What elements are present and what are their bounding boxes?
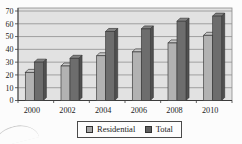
legend-item-residential: Residential — [86, 125, 135, 134]
y-tick-label: 40 — [6, 45, 14, 54]
bar-side-total-2004 — [115, 28, 118, 100]
legend-swatch-residential — [86, 126, 93, 133]
legend-label-total: Total — [156, 125, 173, 134]
y-tick-label: 10 — [6, 84, 14, 93]
bar-side-total-2002 — [79, 55, 82, 100]
bar-residential-2008 — [168, 43, 177, 101]
bar-residential-2010 — [204, 35, 213, 100]
x-tick-label: 2002 — [59, 106, 75, 115]
bar-total-2000 — [34, 62, 43, 100]
x-tick-label: 2008 — [166, 106, 182, 115]
bar-residential-2000 — [25, 72, 34, 100]
bar-residential-2004 — [97, 56, 106, 101]
y-tick-label: 30 — [6, 58, 14, 67]
legend-swatch-total — [145, 126, 152, 133]
plot-background — [18, 8, 232, 101]
bar-side-total-2008 — [186, 18, 189, 100]
bar-side-total-2000 — [43, 59, 46, 100]
bar-side-total-2010 — [222, 13, 225, 100]
bar-side-total-2006 — [150, 26, 153, 101]
bar-residential-2006 — [132, 52, 141, 101]
y-tick-label: 70 — [6, 7, 14, 16]
legend-item-total: Total — [145, 125, 173, 134]
bar-total-2006 — [141, 29, 150, 101]
y-tick-label: 20 — [6, 71, 14, 80]
bar-residential-2002 — [61, 66, 70, 101]
bar-total-2010 — [213, 16, 222, 100]
x-tick-label: 2000 — [24, 106, 40, 115]
bar-total-2004 — [106, 31, 115, 100]
bar-total-2002 — [70, 58, 79, 100]
x-tick-label: 2010 — [202, 106, 218, 115]
chart-container: 010203040506070200020022004200620082010 … — [0, 0, 242, 144]
y-tick-label: 50 — [6, 32, 14, 41]
y-tick-label: 0 — [10, 96, 14, 105]
y-tick-label: 60 — [6, 20, 14, 29]
x-tick-label: 2004 — [95, 106, 111, 115]
x-tick-label: 2006 — [131, 106, 147, 115]
legend-label-residential: Residential — [97, 125, 135, 134]
legend: Residential Total — [77, 121, 182, 138]
bar-total-2008 — [177, 21, 186, 100]
